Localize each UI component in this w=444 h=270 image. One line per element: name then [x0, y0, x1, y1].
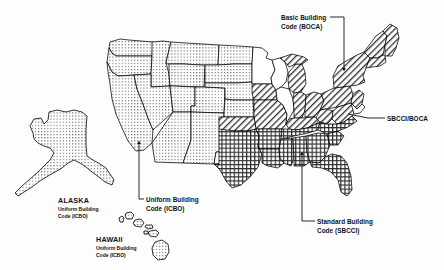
state-arkansas: [256, 129, 282, 149]
alaska-label: ALASKA: [58, 196, 89, 205]
callout-icbo-line1: Uniform Building: [146, 196, 199, 204]
building-code-map: ALASKA Uniform Building Code (ICBO) HAWA…: [0, 0, 444, 270]
hawaii-label: HAWAII: [96, 235, 123, 244]
callout-boca-line2: Code (BOCA): [281, 23, 322, 31]
state-wyoming: [169, 64, 205, 87]
state-south-dakota: [205, 64, 252, 83]
state-montana: [166, 42, 219, 65]
hawaii-island-oahu: [133, 219, 144, 227]
hawaii-sub-line1: Uniform Building: [96, 245, 137, 251]
callout-sbcci-line2: Code (SBCCI): [317, 227, 360, 235]
state-washington: [109, 39, 153, 56]
callout-sbcci-line1: Standard Building: [317, 218, 373, 226]
hawaii-island-hawaii: [152, 240, 169, 260]
state-north-dakota: [218, 45, 253, 65]
hawaii-island-lanai: [144, 231, 148, 234]
callout-icbo-line2: Code (ICBO): [146, 205, 185, 213]
hawaii-sub-line2: Code (ICBO): [96, 252, 126, 258]
alaska-sub-line1: Uniform Building: [58, 206, 99, 212]
callout-sbcci-boca-line1: SBCCI/BOCA: [387, 115, 428, 122]
callout-boca-line1: Basic Building: [281, 14, 326, 22]
alaska-sub-line2: Code (ICBO): [58, 213, 88, 219]
state-kansas: [224, 99, 254, 117]
state-colorado: [191, 87, 225, 113]
